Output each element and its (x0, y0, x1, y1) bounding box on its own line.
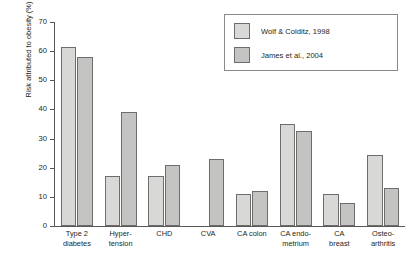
y-tick-70 (50, 22, 54, 23)
x-axis-label: Type 2diabetes (55, 229, 99, 250)
bar (148, 176, 164, 226)
y-tick-50 (50, 80, 54, 81)
y-tick-label-50: 50 (23, 76, 47, 84)
legend-entry-0: Wolf & Colditz, 1998 (234, 23, 330, 39)
x-axis-label-line: CA endo- (274, 229, 318, 239)
y-tick-label-10: 10 (23, 193, 47, 201)
y-tick-30 (50, 139, 54, 140)
bar (61, 47, 77, 226)
bar (252, 191, 268, 226)
y-tick-label-0: 0 (23, 222, 47, 230)
bar (340, 203, 356, 226)
x-axis-label: Osteo-arthritis (361, 229, 405, 250)
x-axis-label-line: CVA (186, 229, 230, 239)
x-axis-label: CVA (186, 229, 230, 239)
x-axis-label-line: Osteo- (361, 229, 405, 239)
y-tick-10 (50, 197, 54, 198)
x-axis-label-line: Hyper- (99, 229, 143, 239)
x-axis-label-line: CA (318, 229, 362, 239)
x-axis-label-line: arthritis (361, 239, 405, 249)
y-tick-60 (50, 51, 54, 52)
y-tick-20 (50, 168, 54, 169)
y-tick-label-30: 30 (23, 135, 47, 143)
x-axis-label-line: Type 2 (55, 229, 99, 239)
legend-label-1: James et al., 2004 (261, 51, 323, 60)
bar (105, 176, 121, 226)
x-axis-label-line: metrium (274, 239, 318, 249)
bar (296, 131, 312, 226)
x-axis-label-line: breast (318, 239, 362, 249)
chart-legend: Wolf & Colditz, 1998 James et al., 2004 (224, 14, 398, 71)
x-axis-label-line: CA colon (230, 229, 274, 239)
series-2-swatch (234, 47, 250, 63)
bar (323, 194, 339, 226)
y-tick-label-60: 60 (23, 47, 47, 55)
x-axis-label: CHD (143, 229, 187, 239)
series-1-swatch (234, 23, 250, 39)
x-axis-label: Hyper-tension (99, 229, 143, 250)
bar (209, 159, 225, 226)
bar (165, 165, 181, 226)
bar (236, 194, 252, 226)
x-axis-label: CAbreast (318, 229, 362, 250)
x-axis-label: CA endo-metrium (274, 229, 318, 250)
bar (77, 57, 93, 226)
legend-entry-1: James et al., 2004 (234, 47, 323, 63)
bar-group (55, 22, 99, 226)
y-tick-40 (50, 109, 54, 110)
bar (384, 188, 400, 226)
bar-chart-figure: Risk attributed to obesity (%) 010203040… (0, 0, 415, 276)
legend-label-0: Wolf & Colditz, 1998 (261, 27, 330, 36)
bar (121, 112, 137, 226)
bar (280, 124, 296, 226)
bar (367, 155, 383, 226)
x-axis-label-line: tension (99, 239, 143, 249)
x-axis-line (54, 226, 405, 227)
bar-group (99, 22, 143, 226)
y-tick-label-20: 20 (23, 164, 47, 172)
bar-group (143, 22, 187, 226)
y-tick-0 (50, 226, 54, 227)
y-tick-label-40: 40 (23, 105, 47, 113)
x-axis-label: CA colon (230, 229, 274, 239)
y-tick-label-70: 70 (23, 18, 47, 26)
x-axis-label-line: CHD (143, 229, 187, 239)
x-axis-label-line: diabetes (55, 239, 99, 249)
